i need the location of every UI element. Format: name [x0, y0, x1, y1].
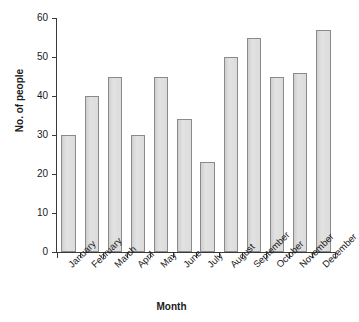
bar — [247, 38, 261, 253]
bar — [270, 77, 284, 253]
bar — [108, 77, 122, 253]
x-tick-mark — [57, 253, 58, 258]
bar — [154, 77, 168, 253]
y-tick-label: 0 — [26, 247, 48, 257]
x-axis-title: Month — [0, 301, 343, 312]
bar — [316, 30, 330, 252]
bar — [224, 57, 238, 252]
bar — [85, 96, 99, 252]
y-tick-label: 10 — [26, 208, 48, 218]
y-tick-label: 30 — [26, 130, 48, 140]
bar — [61, 135, 75, 252]
x-tick-label: July — [205, 250, 225, 270]
y-tick-label: 60 — [26, 13, 48, 23]
y-axis-title: No. of people — [14, 51, 25, 151]
bar — [200, 162, 214, 252]
plot-area — [57, 18, 335, 252]
bar — [177, 119, 191, 252]
bar — [293, 73, 307, 252]
y-tick-label: 50 — [26, 52, 48, 62]
bar — [131, 135, 145, 252]
y-tick-label: 20 — [26, 169, 48, 179]
y-tick-label: 40 — [26, 91, 48, 101]
